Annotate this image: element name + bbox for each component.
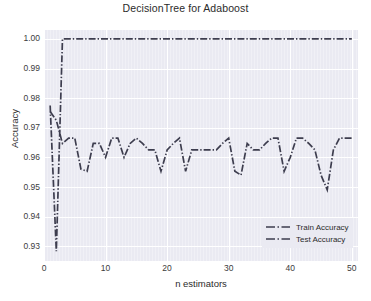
series-line-test-accuracy xyxy=(50,111,352,189)
y-tick-label: 1.00 xyxy=(0,33,40,43)
legend-item-train: Train Accuracy xyxy=(265,221,349,233)
legend-swatch-test-icon xyxy=(265,234,291,244)
legend-label-test: Test Accuracy xyxy=(296,235,345,244)
chart-root: DecisionTree for Adaboost Accuracy 0.930… xyxy=(0,0,371,301)
x-tick-label: 0 xyxy=(29,263,59,273)
legend-item-test: Test Accuracy xyxy=(265,233,349,245)
chart-title: DecisionTree for Adaboost xyxy=(0,2,371,14)
y-tick-label: 0.93 xyxy=(0,241,40,251)
y-tick-label: 0.99 xyxy=(0,63,40,73)
x-tick-label: 40 xyxy=(275,263,305,273)
x-tick-label: 50 xyxy=(337,263,367,273)
y-tick-label: 0.98 xyxy=(0,93,40,103)
legend-label-train: Train Accuracy xyxy=(296,223,349,232)
y-tick-label: 0.96 xyxy=(0,152,40,162)
x-tick-label: 10 xyxy=(91,263,121,273)
x-tick-label: 30 xyxy=(214,263,244,273)
y-axis-tick-labels: 0.930.940.950.960.970.980.991.00 xyxy=(0,30,40,261)
chart-legend: Train Accuracy Test Accuracy xyxy=(262,218,353,248)
y-tick-label: 0.97 xyxy=(0,122,40,132)
x-tick-label: 20 xyxy=(152,263,182,273)
y-tick-label: 0.95 xyxy=(0,182,40,192)
x-axis-label: n estimators xyxy=(44,278,358,289)
legend-swatch-train-icon xyxy=(265,222,291,232)
x-axis-tick-labels: 01020304050 xyxy=(44,263,358,277)
y-tick-label: 0.94 xyxy=(0,211,40,221)
